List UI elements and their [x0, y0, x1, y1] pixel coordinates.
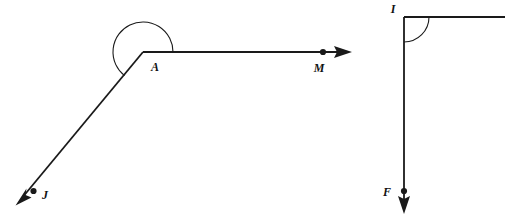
right-angle-arc [404, 17, 429, 42]
point-J-dot [30, 188, 36, 194]
geometry-diagram-root: A M J I F [0, 0, 505, 224]
point-F-dot [401, 188, 407, 194]
left-diagram-group: A M J [16, 22, 353, 206]
point-label-A: A [150, 60, 159, 74]
ray-AJ-line [24, 52, 143, 196]
right-diagram-group: I F [382, 2, 505, 214]
point-label-J: J [41, 188, 49, 202]
reflex-angle-arc [113, 22, 173, 76]
point-label-M: M [313, 61, 325, 75]
point-M-dot [320, 49, 326, 55]
point-label-I: I [390, 2, 397, 16]
figure-canvas: A M J I F [0, 0, 505, 224]
point-label-F: F [382, 185, 391, 199]
ray-AJ-arrowhead [16, 189, 32, 206]
